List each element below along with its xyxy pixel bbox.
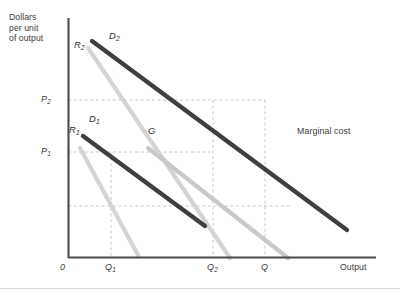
- curve-label-g: G: [148, 125, 155, 136]
- x-tick-label-q: Q: [261, 262, 268, 272]
- x-tick-label-q2: Q2: [207, 262, 218, 272]
- x-axis-title: Output: [340, 262, 366, 273]
- curve-label-r1: R1: [69, 124, 79, 135]
- curve-label-d2: D2: [109, 30, 119, 41]
- y-axis-title: Dollars per unit of output: [9, 12, 43, 44]
- curve-label-r2: R2: [74, 39, 84, 50]
- origin-label: 0: [60, 262, 65, 272]
- footer-divider: [0, 288, 400, 289]
- marginal-cost-annotation: Marginal cost: [297, 126, 351, 136]
- x-tick-label-q1: Q1: [105, 262, 116, 272]
- curve-label-d1: D1: [89, 113, 99, 124]
- curve-r1: [80, 148, 138, 255]
- y-tick-label-p2: P2: [41, 94, 51, 104]
- economics-line-chart: [0, 0, 400, 297]
- y-tick-label-p1: P1: [41, 146, 51, 156]
